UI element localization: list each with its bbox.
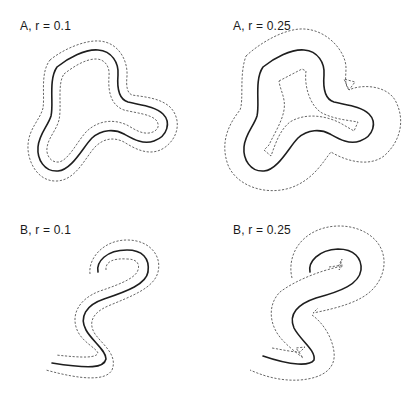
- inner-offset-curve: [56, 259, 139, 357]
- original-curve: [38, 50, 167, 171]
- outer-offset-curve: [46, 240, 159, 378]
- curve-a-r025: [225, 29, 401, 191]
- curve-b-r025: [250, 226, 384, 380]
- original-curve: [263, 249, 361, 364]
- original-curve: [52, 250, 148, 367]
- outer-offset-curve: [28, 41, 177, 181]
- original-curve: [244, 50, 373, 171]
- curve-a-r01: [28, 41, 177, 181]
- inner-offset-curve: [47, 59, 158, 162]
- offset-curves-diagram: [0, 0, 412, 411]
- outer-offset-curve: [291, 226, 384, 313]
- inner-offset-curve: [264, 69, 358, 156]
- curve-b-r01: [46, 240, 159, 378]
